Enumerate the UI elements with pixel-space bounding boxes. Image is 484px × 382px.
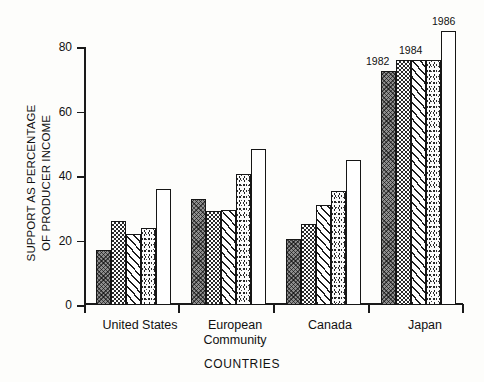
y-tick-label-0: 0 (65, 299, 72, 311)
x-tick-1 (178, 304, 180, 313)
bar-canada-1986 (346, 160, 361, 305)
bar-japan-1986 (441, 31, 456, 305)
year-annotation-1982: 1982 (366, 56, 389, 67)
bar-european-community-1984 (221, 210, 236, 305)
plot-area: 80 60 40 20 0 (84, 30, 464, 310)
bar-japan-1985 (426, 60, 441, 305)
category-label-european-community: European Community (180, 318, 290, 348)
bar-united-states-1984 (126, 234, 141, 305)
bar-canada-1983 (301, 224, 316, 305)
bar-group-japan (381, 47, 461, 305)
y-tick-label-60: 60 (59, 106, 72, 118)
y-axis-title: SUPPORT AS PERCENTAGE OF PRODUCER INCOME (24, 48, 54, 318)
bar-japan-1984 (411, 60, 426, 305)
x-axis-title: COUNTRIES (0, 357, 484, 371)
year-annotation-1986: 1986 (432, 16, 455, 27)
bar-japan-1983 (396, 60, 411, 305)
x-tick-2 (273, 304, 275, 313)
bar-european-community-1985 (236, 174, 251, 305)
bar-united-states-1985 (141, 228, 156, 305)
bar-japan-1982 (381, 71, 396, 305)
x-tick-0 (84, 304, 86, 313)
category-label-japan: Japan (370, 318, 480, 333)
bar-united-states-1986 (156, 189, 171, 305)
bar-group-canada (286, 47, 366, 305)
y-tick-label-20: 20 (59, 235, 72, 247)
bar-european-community-1986 (251, 149, 266, 305)
bar-group-united-states (96, 47, 176, 305)
category-label-united-states: United States (85, 318, 195, 333)
bar-group-european-community (191, 47, 271, 305)
category-label-canada: Canada (275, 318, 385, 333)
year-annotation-1984: 1984 (399, 45, 422, 56)
bar-united-states-1983 (111, 221, 126, 305)
x-tick-3 (368, 304, 370, 313)
bar-canada-1985 (331, 191, 346, 305)
x-tick-4 (462, 304, 464, 313)
bar-european-community-1983 (206, 211, 221, 305)
y-tick-label-40: 40 (59, 170, 72, 182)
bar-chart: SUPPORT AS PERCENTAGE OF PRODUCER INCOME… (0, 0, 484, 382)
bar-canada-1984 (316, 205, 331, 305)
bar-canada-1982 (286, 239, 301, 305)
y-tick-label-80: 80 (59, 41, 72, 53)
bar-united-states-1982 (96, 250, 111, 305)
bar-european-community-1982 (191, 199, 206, 305)
bar-groups (85, 47, 463, 305)
